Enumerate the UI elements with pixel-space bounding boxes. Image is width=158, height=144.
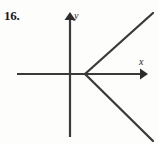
x-axis-arrowhead-icon (140, 69, 148, 80)
coordinate-plane-graphic (0, 0, 158, 144)
x-axis-label: x (139, 57, 143, 67)
problem-figure: 16. y x (0, 0, 158, 144)
y-axis-label: y (74, 11, 78, 21)
graph-lower-ray (85, 74, 153, 141)
